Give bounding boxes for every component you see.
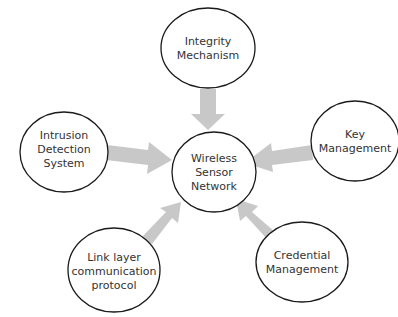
label-line: Wireless [191, 152, 237, 165]
diagram-svg: IntegrityMechanism IntrusionDetectionSys… [0, 0, 398, 317]
node-credential: CredentialManagement [256, 222, 348, 302]
node-intrusion: IntrusionDetectionSystem [20, 112, 108, 192]
label-line: Management [266, 263, 339, 276]
arrow-integrity-to-wsn [191, 89, 225, 130]
label-line: Integrity [185, 35, 232, 48]
label-line: Detection [37, 143, 90, 156]
label-line: Network [191, 180, 238, 193]
arrow-credential-to-wsn [236, 199, 275, 239]
node-integrity: IntegrityMechanism [161, 8, 255, 88]
svg-text:IntegrityMechanism: IntegrityMechanism [177, 35, 240, 62]
label-line: Sensor [195, 166, 233, 179]
label-line: Key [345, 128, 365, 141]
svg-text:CredentialManagement: CredentialManagement [266, 249, 339, 276]
label-line: Link layer [87, 251, 141, 264]
label-line: Mechanism [177, 49, 240, 62]
node-key: KeyManagement [311, 101, 398, 181]
node-link: Link layercommunicationprotocol [68, 228, 160, 312]
svg-text:IntrusionDetectionSystem: IntrusionDetectionSystem [37, 129, 90, 170]
label-line: communication [71, 265, 156, 278]
svg-text:WirelessSensorNetwork: WirelessSensorNetwork [191, 152, 238, 193]
label-line: protocol [92, 279, 137, 292]
label-line: System [43, 157, 84, 170]
arrow-intrusion-to-wsn [106, 142, 172, 174]
arrow-link-to-wsn [142, 202, 181, 244]
node-wsn-center: WirelessSensorNetwork [172, 132, 256, 212]
label-line: Intrusion [40, 129, 89, 142]
label-line: Credential [274, 249, 331, 262]
label-line: Management [319, 142, 392, 155]
diagram-canvas: IntegrityMechanism IntrusionDetectionSys… [0, 0, 398, 317]
